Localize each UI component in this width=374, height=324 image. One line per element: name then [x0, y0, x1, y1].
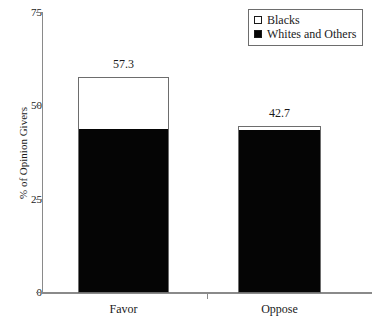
y-axis-line [42, 12, 43, 293]
chart-legend: Blacks Whites and Others [248, 9, 363, 46]
y-axis-title: % of Opinion Givers [17, 73, 29, 233]
x-axis-label-oppose: Oppose [238, 303, 321, 316]
bar-value-oppose: 42.7 [238, 107, 321, 119]
legend-label-blacks: Blacks [267, 14, 300, 26]
stacked-bar-chart: 75 50 25 0 % of Opinion Givers 57.3 Favo… [0, 0, 374, 324]
bar-oppose-segment-whites-and-others [239, 130, 320, 292]
bar-value-favor: 57.3 [78, 58, 169, 70]
x-axis-label-favor: Favor [78, 303, 169, 316]
y-tick-mark-75 [36, 12, 42, 13]
bar-favor[interactable] [78, 77, 169, 293]
bar-favor-segment-blacks [79, 78, 168, 129]
x-tick-mark-mid [207, 292, 208, 299]
bar-favor-segment-whites-and-others [79, 129, 168, 292]
legend-item-blacks[interactable]: Blacks [254, 13, 356, 27]
legend-swatch-hollow-icon [254, 16, 262, 24]
bar-oppose[interactable] [238, 126, 321, 293]
legend-item-whites-and-others[interactable]: Whites and Others [254, 27, 356, 41]
y-tick-mark-50 [36, 105, 42, 106]
y-tick-mark-25 [36, 199, 42, 200]
legend-label-whites-and-others: Whites and Others [267, 28, 356, 40]
legend-swatch-filled-icon [254, 30, 262, 38]
